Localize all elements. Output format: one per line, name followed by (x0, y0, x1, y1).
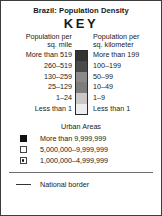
urban-area-row: More than 9,999,999 (6, 133, 156, 144)
density-header-sq-km: Population per sq. kilometer (93, 33, 156, 50)
urban-area-label: More than 9,999,999 (40, 134, 106, 143)
urban-area-row: 1,000,000–4,999,999 (6, 155, 156, 166)
density-swatch (75, 104, 88, 115)
density-label-sq-mile: More than 519 (6, 50, 72, 61)
urban-area-label: 1,000,000–4,999,999 (40, 156, 108, 165)
national-border-row: National border (6, 180, 156, 189)
urban-area-row: 5,000,000–9,999,999 (6, 144, 156, 155)
density-swatch (75, 72, 88, 83)
density-swatch (75, 93, 88, 104)
density-label-sq-km: 10–49 (93, 82, 156, 93)
density-label-sq-mile: 130–259 (6, 72, 72, 83)
density-label-sq-mile: 260–519 (6, 61, 72, 72)
density-label-sq-mile: Less than 1 (6, 104, 72, 115)
density-swatch-column (75, 33, 89, 115)
density-column-sq-km: Population per sq. kilometer More than 1… (89, 33, 156, 115)
urban-area-label: 5,000,000–9,999,999 (40, 145, 108, 154)
legend-title: Brazil: Population Density (6, 6, 156, 16)
density-header-sq-mile: Population per sq. mile (6, 33, 72, 50)
density-label-sq-km: 50–99 (93, 72, 156, 83)
swatch-header-spacer (75, 33, 89, 50)
hollow-square-icon (20, 146, 27, 153)
map-legend: Brazil: Population Density KEY Populatio… (0, 0, 162, 216)
density-swatch (75, 50, 88, 61)
density-swatch (75, 61, 88, 72)
urban-areas-heading: Urban Areas (6, 122, 156, 131)
urban-symbol-cell (6, 135, 40, 142)
density-column-sq-mile: Population per sq. mile More than 519 26… (6, 33, 75, 115)
density-label-sq-km: More than 199 (93, 50, 156, 61)
national-border-label: National border (40, 180, 89, 189)
urban-symbol-cell (6, 157, 40, 164)
density-label-sq-km: 100–199 (93, 61, 156, 72)
density-label-sq-km: 1–9 (93, 93, 156, 104)
density-label-sq-mile: 1–24 (6, 93, 72, 104)
border-line-icon (16, 184, 31, 185)
dotted-square-icon (20, 157, 27, 164)
key-heading: KEY (6, 16, 156, 31)
density-table: Population per sq. mile More than 519 26… (6, 33, 156, 115)
urban-symbol-cell (6, 146, 40, 153)
density-label-sq-km: Less than 1 (93, 104, 156, 115)
border-symbol-cell (6, 184, 40, 185)
filled-square-icon (20, 135, 27, 142)
legend-divider (9, 172, 153, 173)
density-label-sq-mile: 25–129 (6, 82, 72, 93)
density-swatch (75, 82, 88, 93)
